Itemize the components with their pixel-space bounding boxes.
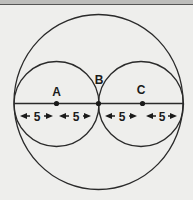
svg-text:5: 5: [159, 110, 166, 124]
point-b-dot: [96, 101, 101, 106]
svg-text:5: 5: [73, 110, 80, 124]
point-a-dot: [54, 101, 59, 106]
arrow-right-icon: [46, 113, 53, 119]
svg-text:5: 5: [119, 110, 126, 124]
point-a-label: A: [52, 85, 61, 99]
arrow-right-icon: [130, 113, 137, 119]
arrow-left-icon: [59, 113, 66, 119]
dimension-4: 5: [146, 110, 177, 124]
svg-text:5: 5: [34, 110, 41, 124]
arrow-right-icon: [170, 113, 177, 119]
point-b-label: B: [95, 73, 104, 87]
point-c-dot: [140, 101, 145, 106]
dimension-1: 5: [20, 110, 53, 124]
dimension-2: 5: [59, 110, 91, 124]
arrow-left-icon: [146, 113, 153, 119]
arrow-right-icon: [84, 113, 91, 119]
circles-diagram: A B C 5 5 5 5: [0, 0, 193, 200]
dimension-3: 5: [105, 110, 137, 124]
diagram-frame: A B C 5 5 5 5: [0, 0, 193, 200]
point-c-label: C: [137, 83, 146, 97]
arrow-left-icon: [105, 113, 112, 119]
arrow-left-icon: [20, 113, 27, 119]
